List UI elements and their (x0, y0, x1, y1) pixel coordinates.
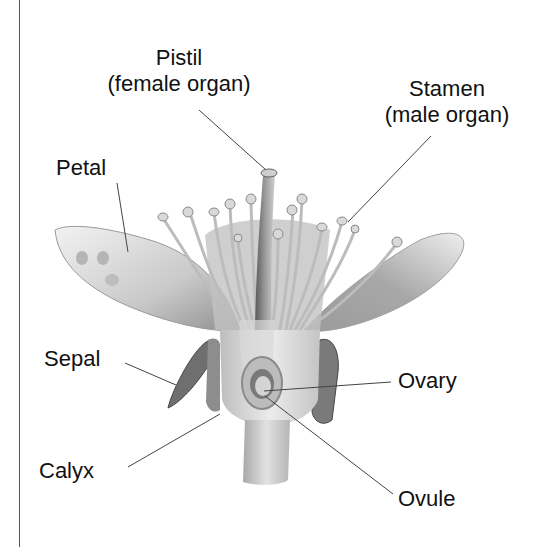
leader-pistil (199, 110, 266, 170)
leader-calyx (128, 414, 220, 467)
label-ovule: Ovule (398, 486, 455, 512)
label-stamen-subtitle: (male organ) (372, 102, 522, 128)
label-pistil-subtitle: (female organ) (91, 71, 267, 97)
label-petal-title: Petal (56, 155, 106, 181)
label-pistil: Pistil (female organ) (91, 45, 267, 97)
ovary (242, 357, 282, 409)
label-sepal: Sepal (44, 346, 100, 372)
label-calyx-title: Calyx (39, 458, 94, 484)
stem (243, 420, 290, 485)
label-stamen-title: Stamen (372, 76, 522, 102)
label-ovary-title: Ovary (398, 368, 457, 394)
label-pistil-title: Pistil (91, 45, 267, 71)
leader-stamen (348, 136, 431, 222)
label-ovule-title: Ovule (398, 486, 455, 512)
label-petal: Petal (56, 155, 106, 181)
label-calyx: Calyx (39, 458, 94, 484)
leader-sepal (125, 363, 176, 385)
label-ovary: Ovary (398, 368, 457, 394)
label-sepal-title: Sepal (44, 346, 100, 372)
label-stamen: Stamen (male organ) (372, 76, 522, 128)
